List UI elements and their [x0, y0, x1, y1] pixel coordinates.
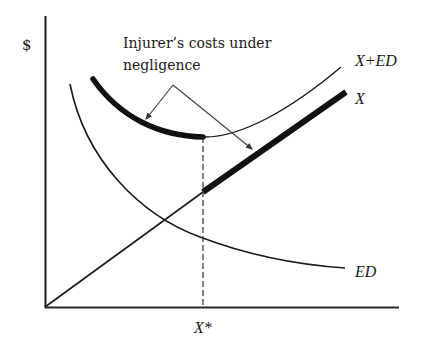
annotation-arrow-left [146, 85, 173, 119]
annotation-arrow-right [173, 85, 252, 149]
x-plus-ed-curve [93, 67, 341, 137]
annotation-line-1: Injurer’s costs under [123, 35, 272, 51]
y-axis-label: $ [22, 36, 32, 54]
x-line-thin [45, 192, 203, 307]
ed-curve [70, 84, 345, 268]
x-label: X [354, 90, 366, 107]
negligence-cost-diagram: $ Injurer’s costs under negligence X+ED … [0, 0, 422, 357]
x-plus-ed-label: X+ED [354, 52, 397, 69]
ed-label: ED [354, 263, 377, 280]
annotation-line-2: negligence [123, 57, 201, 73]
x-star-label: X* [193, 319, 212, 336]
x-plus-ed-thick-segment [93, 79, 203, 137]
x-line-thick [203, 92, 346, 192]
